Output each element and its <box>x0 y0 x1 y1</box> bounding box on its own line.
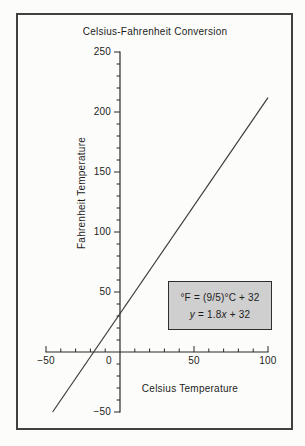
x-tick-label: −50 <box>37 355 55 366</box>
fahrenheit-equation: °F = (9/5)°C + 32 <box>180 292 259 303</box>
linear-equation: y = 1.8x + 32 <box>190 309 250 320</box>
y-tick-label: 50 <box>99 286 111 297</box>
conversion-line <box>53 98 268 412</box>
y-tick-label: 100 <box>94 226 112 237</box>
equation-box: °F = (9/5)°C + 32 y = 1.8x + 32 <box>168 281 272 330</box>
equation-tail: + 32 <box>227 309 251 320</box>
plot-area: −50050100−5050100150200250 <box>0 0 305 446</box>
x-axis-label: Celsius Temperature <box>142 383 238 394</box>
scanned-figure: Celsius-Fahrenheit Conversion Fahrenheit… <box>0 0 305 446</box>
y-tick-label: 250 <box>94 46 112 57</box>
y-tick-label: −50 <box>93 406 111 417</box>
y-tick-label: 200 <box>94 106 112 117</box>
x-tick-label: 50 <box>188 355 200 366</box>
equation-middle: = 1.8 <box>195 309 222 320</box>
y-tick-label: 150 <box>94 166 112 177</box>
x-tick-label: 0 <box>106 355 112 366</box>
x-tick-label: 100 <box>259 355 277 366</box>
